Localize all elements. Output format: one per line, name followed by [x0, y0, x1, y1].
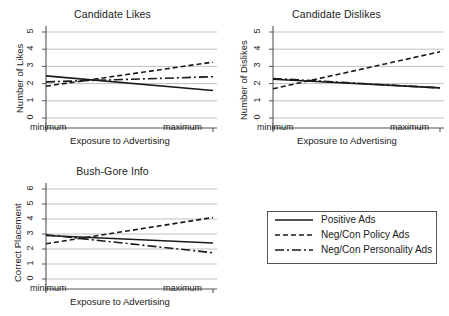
x-tick-max: maximum	[163, 283, 202, 293]
x-tick-min: minimum	[30, 122, 67, 132]
x-tick-max: maximum	[390, 122, 429, 132]
legend-item: Positive Ads	[268, 212, 436, 227]
x-axis-label: Exposure to Advertising	[30, 135, 210, 146]
legend-label: Neg/Con Personality Ads	[321, 244, 432, 255]
panel-title: Candidate Likes	[0, 8, 225, 20]
y-tick-label: 2	[25, 77, 35, 89]
legend-label: Positive Ads	[321, 214, 375, 225]
series-line	[46, 235, 213, 253]
y-tick-label: 4	[25, 42, 35, 54]
y-axis-label: Number of Likes	[14, 44, 25, 113]
y-tick-label: 6	[25, 182, 35, 194]
figure-root: { "figure": { "background": "#ffffff", "…	[0, 0, 449, 316]
legend-label: Neg/Con Policy Ads	[321, 229, 409, 240]
y-tick-label: 2	[25, 242, 35, 254]
y-tick-label: 4	[252, 42, 262, 54]
y-tick-label: 1	[252, 94, 262, 106]
x-axis-label: Exposure to Advertising	[30, 296, 210, 307]
y-tick-label: 5	[25, 25, 35, 37]
y-tick-label: 5	[252, 25, 262, 37]
legend-key-dashed-icon	[274, 229, 314, 241]
legend-item: Neg/Con Personality Ads	[268, 242, 436, 257]
series-legend: Positive AdsNeg/Con Policy AdsNeg/Con Pe…	[267, 211, 437, 264]
y-tick-label: 1	[25, 94, 35, 106]
legend-key-dashdot-icon	[274, 244, 314, 256]
y-tick-label: 5	[25, 197, 35, 209]
chart-panel-bush-gore-info: Bush-Gore Info Correct Placement 0123456…	[0, 165, 225, 310]
x-tick-max: maximum	[163, 122, 202, 132]
legend-item: Neg/Con Policy Ads	[268, 227, 436, 242]
panel-title: Candidate Dislikes	[224, 8, 449, 20]
y-tick-label: 3	[25, 59, 35, 71]
x-tick-min: minimum	[257, 122, 294, 132]
chart-panel-candidate-likes: Candidate Likes Number of Likes 012345 m…	[0, 8, 225, 148]
x-axis-label: Exposure to Advertising	[257, 135, 437, 146]
panel-title: Bush-Gore Info	[0, 165, 225, 177]
y-tick-label: 1	[25, 257, 35, 269]
y-tick-label: 4	[25, 212, 35, 224]
x-tick-min: minimum	[30, 283, 67, 293]
y-tick-label: 3	[252, 59, 262, 71]
chart-panel-candidate-dislikes: Candidate Dislikes Number of Dislikes 01…	[224, 8, 449, 148]
legend-key-solid-icon	[274, 214, 314, 226]
y-axis-label: Correct Placement	[12, 203, 23, 282]
y-tick-label: 3	[25, 227, 35, 239]
y-axis-label: Number of Dislikes	[238, 40, 249, 120]
y-tick-label: 2	[252, 77, 262, 89]
